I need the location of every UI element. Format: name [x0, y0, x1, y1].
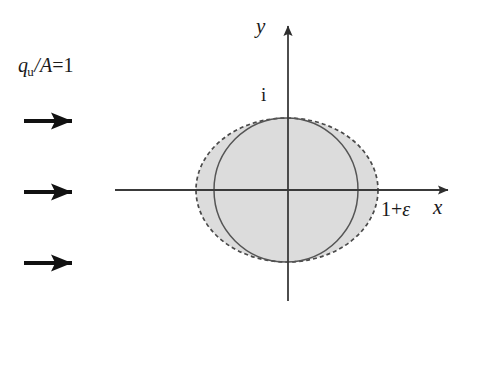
flow-value: 1	[64, 54, 74, 76]
x-axis-tick-label: 1+ε	[381, 199, 410, 219]
uniform-flow-arrows	[24, 121, 72, 263]
epsilon-symbol: ε	[402, 198, 410, 220]
y-axis-tick-label: i	[261, 85, 266, 104]
figure-canvas: qu/A=1 y x i 1+ε	[0, 0, 490, 367]
flow-equals-sign: =	[52, 54, 63, 76]
flow-subscript: u	[27, 64, 34, 79]
flow-area-symbol: A	[40, 54, 52, 76]
x-axis-label: x	[433, 197, 442, 218]
free-stream-flux-label: qu/A=1	[18, 55, 74, 78]
tick-value: 1+	[381, 198, 402, 220]
flow-slash: /	[34, 54, 40, 76]
y-axis-label: y	[256, 16, 265, 37]
